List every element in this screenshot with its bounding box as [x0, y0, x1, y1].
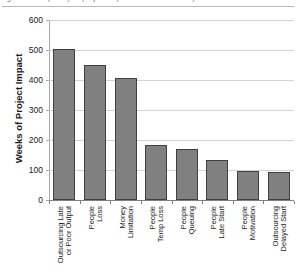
x-axis-labels: Outsourcing Lateor Poor OutputPeopleLoss… — [49, 206, 294, 277]
x-tick-mark — [263, 201, 264, 204]
y-tick-mark — [46, 20, 49, 21]
x-tick-label-line: Queuing — [187, 206, 195, 274]
header-rule — [2, 6, 294, 7]
x-tick-label-line: Loss — [96, 206, 104, 274]
y-tick-label: 400 — [3, 75, 43, 85]
x-tick-label-line: Temp Loss — [157, 206, 165, 274]
x-tick-label: Outsourcing Lateor Poor Output — [57, 206, 71, 274]
y-tick-label: 600 — [3, 15, 43, 25]
x-tick-label-line: Delayed Start — [279, 206, 287, 274]
bar — [237, 171, 259, 200]
y-tick-label: 500 — [3, 45, 43, 55]
bar — [53, 49, 75, 201]
y-tick-label: 100 — [3, 165, 43, 175]
x-tick-mark — [49, 201, 50, 204]
gridline — [49, 20, 294, 21]
x-tick-mark — [202, 201, 203, 204]
bar — [206, 160, 228, 200]
x-tick-mark — [110, 201, 111, 204]
x-tick-label-line: or Poor Output — [65, 206, 73, 274]
x-tick-label: PeopleLoss — [88, 206, 102, 274]
y-tick-mark — [46, 80, 49, 81]
x-tick-label: PeopleMotivation — [241, 206, 255, 274]
x-tick-label: OutsourcingDelayed Start — [272, 206, 286, 274]
bar — [84, 65, 106, 200]
y-tick-label: 200 — [3, 135, 43, 145]
bar — [145, 145, 167, 201]
bar — [115, 78, 137, 200]
x-tick-label: PeopleTemp Loss — [149, 206, 163, 274]
x-tick-mark — [141, 201, 142, 204]
x-tick-label-line: Limitation — [126, 206, 134, 274]
y-tick-mark — [46, 110, 49, 111]
gridline — [49, 50, 294, 51]
x-tick-label: PeopleQueuing — [180, 206, 194, 274]
x-tick-mark — [294, 201, 295, 204]
y-tick-mark — [46, 50, 49, 51]
x-tick-mark — [80, 201, 81, 204]
x-tick-label-line: Late Start — [218, 206, 226, 274]
x-tick-mark — [233, 201, 234, 204]
y-tick-label: 0 — [3, 195, 43, 205]
x-tick-mark — [172, 201, 173, 204]
plot-area: 0100200300400500600 — [49, 20, 294, 200]
x-tick-label: PeopleLate Start — [210, 206, 224, 274]
figure-caption-remnant: Figure 3. Frequency of project impact ca… — [0, 0, 298, 2]
y-tick-mark — [46, 170, 49, 171]
x-tick-label-line: Motivation — [249, 206, 257, 274]
y-tick-label: 300 — [3, 105, 43, 115]
bar-chart-figure: Figure 3. Frequency of project impact ca… — [0, 0, 298, 277]
bar — [268, 172, 290, 201]
bar — [176, 149, 198, 200]
x-tick-label: MoneyLimitation — [119, 206, 133, 274]
y-tick-mark — [46, 140, 49, 141]
